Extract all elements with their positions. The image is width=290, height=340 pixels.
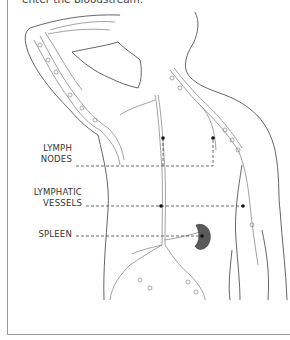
label-line: LYMPH: [22, 143, 72, 154]
leader-lines: [76, 138, 243, 236]
label-spleen: SPLEEN: [12, 229, 72, 240]
leader-dots: [159, 136, 245, 238]
label-lymph-nodes: LYMPH NODES: [22, 143, 72, 165]
label-line: VESSELS: [12, 198, 82, 209]
label-line: LYMPHATIC: [12, 187, 82, 198]
lymphatic-system-illustration: [0, 0, 290, 340]
label-line: NODES: [22, 154, 72, 165]
label-lymphatic-vessels: LYMPHATIC VESSELS: [12, 187, 82, 209]
label-line: SPLEEN: [12, 229, 72, 240]
lymph-node-clusters: [38, 43, 254, 294]
